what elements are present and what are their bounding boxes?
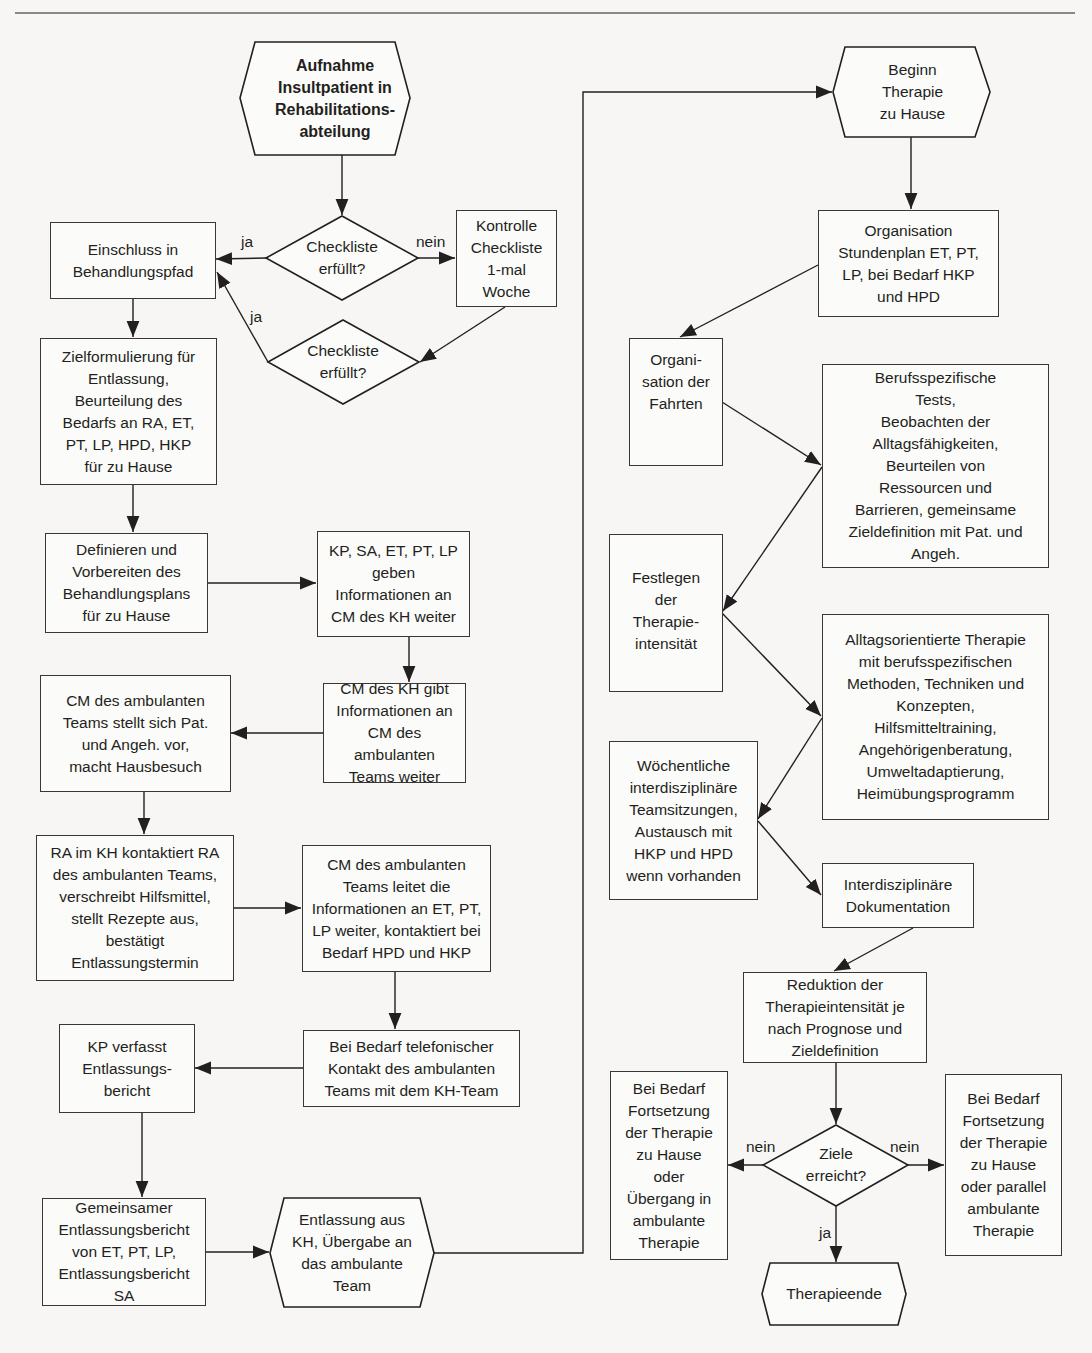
define-plan-box: Definieren und Vorbereiten des Behandlun…: [45, 533, 208, 633]
joint-report-box: Gemeinsamer Entlassungsbericht von ET, P…: [42, 1198, 206, 1306]
cm-kh-info-box: CM des KH gibt Informationen an CM des a…: [323, 683, 466, 783]
phone-contact-box: Bei Bedarf telefonischer Kontakt des amb…: [303, 1030, 520, 1107]
decision-1-yes-label: ja: [241, 233, 253, 251]
goals-decision: Ziele erreicht?: [783, 1143, 889, 1187]
kp-report-box: KP verfasst Entlassungs- bericht: [59, 1024, 195, 1113]
continue-left-box: Bei Bedarf Fortsetzung der Therapie zu H…: [610, 1071, 728, 1260]
therapy-start-node: Beginn Therapie zu Hause: [840, 48, 985, 136]
cm-amb-forward-box: CM des ambulanten Teams leitet die Infor…: [302, 845, 491, 972]
documentation-box: Interdisziplinäre Dokumentation: [822, 863, 974, 928]
goals-no-right-label: nein: [890, 1138, 919, 1156]
discharge-node: Entlassung aus KH, Übergabe an das ambul…: [280, 1200, 424, 1306]
intensity-box: Festlegen der Therapie- intensität: [609, 534, 723, 692]
assessment-box: Berufsspezifische Tests, Beobachten der …: [822, 364, 1049, 568]
decision-2-yes-label: ja: [250, 308, 262, 326]
start-node: Aufnahme Insultpatient in Rehabilitation…: [250, 44, 420, 154]
cm-amb-visit-box: CM des ambulanten Teams stellt sich Pat.…: [40, 675, 231, 792]
goal-formulation-box: Zielformulierung für Entlassung, Beurtei…: [40, 338, 217, 485]
schedule-box: Organisation Stundenplan ET, PT, LP, bei…: [818, 210, 999, 317]
team-meetings-box: Wöchentliche interdisziplinäre Teamsitzu…: [609, 741, 758, 900]
end-node: Therapieende: [770, 1264, 898, 1324]
ra-contact-box: RA im KH kontaktiert RA des ambulanten T…: [36, 835, 234, 981]
reduction-box: Reduktion der Therapieintensität je nach…: [743, 972, 927, 1063]
transport-box: Organi- sation der Fahrten: [629, 338, 723, 466]
goals-yes-label: ja: [819, 1224, 831, 1242]
therapy-box: Alltagsorientierte Therapie mit berufssp…: [822, 614, 1049, 820]
inclusion-box: Einschluss in Behandlungspfad: [50, 222, 216, 299]
checklist-decision-2: Checkliste erfüllt?: [283, 340, 403, 384]
info-to-cm-box: KP, SA, ET, PT, LP geben Informationen a…: [317, 531, 470, 637]
goals-no-left-label: nein: [746, 1138, 775, 1156]
checklist-control-box: Kontrolle Checkliste 1-mal Woche: [456, 210, 557, 307]
decision-1-no-label: nein: [416, 233, 445, 251]
checklist-decision-1: Checkliste erfüllt?: [282, 236, 402, 280]
continue-right-box: Bei Bedarf Fortsetzung der Therapie zu H…: [945, 1074, 1062, 1256]
